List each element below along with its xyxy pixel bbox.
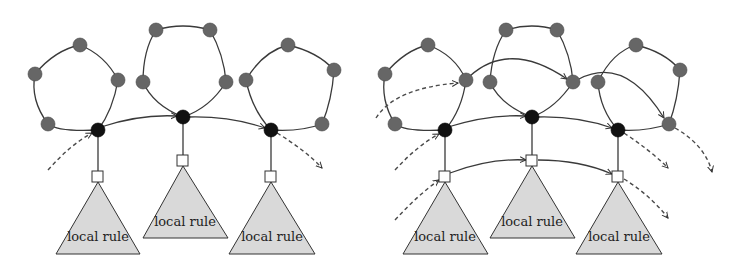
cycle-2: [143, 26, 226, 117]
link-edge: [189, 117, 265, 128]
root-square: [526, 155, 537, 166]
left-panel: local rule local rule local rule: [28, 23, 341, 254]
cross-link: [470, 59, 567, 79]
root-square: [612, 171, 623, 182]
link-edge: [448, 116, 526, 127]
diagram-canvas: local rule local rule local rule: [0, 0, 746, 272]
root-square: [177, 155, 188, 166]
root-square: [92, 171, 103, 182]
incoming-dashed-arrow: [48, 133, 92, 170]
outgoing-dashed-arrow: [277, 133, 322, 168]
outgoing-dashed-arrow: [675, 128, 712, 172]
local-rule-label: local rule: [414, 229, 476, 244]
link-edge: [538, 117, 612, 128]
local-rule-label: local rule: [241, 229, 303, 244]
outgoing-dashed-arrow: [624, 133, 668, 168]
local-rule-label: local rule: [154, 214, 216, 229]
incoming-dashed-arrow: [395, 134, 439, 170]
local-rule-label: local rule: [67, 229, 129, 244]
link-edge: [450, 160, 526, 173]
link-edge: [538, 160, 612, 174]
root-square: [439, 171, 450, 182]
incoming-dashed-arrow: [376, 83, 458, 118]
link-edge: [101, 116, 177, 127]
local-rule-label: local rule: [588, 229, 650, 244]
right-panel: local rule local rule local rule: [376, 23, 712, 254]
root-square: [265, 171, 276, 182]
cycle-2: [490, 26, 573, 117]
local-rule-label: local rule: [501, 214, 563, 229]
